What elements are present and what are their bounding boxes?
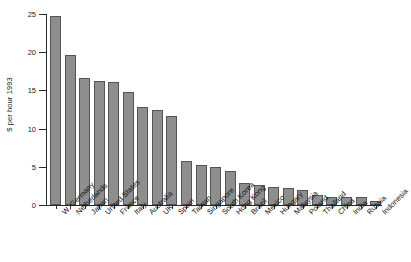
x-axis-label: W. Germany bbox=[60, 210, 66, 216]
x-axis-label: Netherlands bbox=[74, 210, 80, 216]
x-axis-label: Russia bbox=[365, 210, 371, 216]
x-axis-label: Thailand bbox=[321, 210, 327, 216]
x-axis-label: Italy bbox=[132, 210, 138, 216]
x-axis-label: Mexico bbox=[263, 210, 269, 216]
x-axis-label: Malaysia bbox=[292, 210, 298, 216]
y-tick-label-20: 20 bbox=[18, 48, 36, 57]
x-axis-label: India bbox=[351, 210, 357, 216]
x-tick bbox=[56, 205, 57, 209]
x-axis-label: Spain bbox=[176, 210, 182, 216]
y-axis-title-text: $ per hour 1993 bbox=[5, 77, 14, 131]
x-axis-label: Poland bbox=[307, 210, 313, 216]
y-tick-label-15: 15 bbox=[18, 86, 36, 95]
y-tick-label-25: 25 bbox=[18, 10, 36, 19]
x-axis-label: United States bbox=[103, 210, 109, 216]
y-axis-line bbox=[46, 14, 47, 206]
y-axis-title: $ per hour 1993 bbox=[0, 0, 18, 208]
y-tick-15 bbox=[39, 90, 46, 91]
bar bbox=[108, 82, 119, 205]
x-axis-label: Indonesia bbox=[380, 210, 386, 216]
bar-chart: $ per hour 1993 0510152025 W. GermanyNet… bbox=[0, 0, 411, 262]
x-axis-label: Hong Kong bbox=[234, 210, 240, 216]
y-tick-0 bbox=[39, 205, 46, 206]
x-axis-label: Brazil bbox=[249, 210, 255, 216]
y-tick-20 bbox=[39, 52, 46, 53]
x-axis-label: Japan bbox=[89, 210, 95, 216]
y-tick-5 bbox=[39, 167, 46, 168]
y-tick-25 bbox=[39, 14, 46, 15]
y-tick-label-5: 5 bbox=[18, 163, 36, 172]
y-tick-label-10: 10 bbox=[18, 125, 36, 134]
y-tick-label-0: 0 bbox=[18, 201, 36, 210]
x-axis-label: France bbox=[118, 210, 124, 216]
x-axis-label: Taiwan bbox=[190, 210, 196, 216]
bar bbox=[137, 107, 148, 205]
y-tick-10 bbox=[39, 129, 46, 130]
bar bbox=[152, 110, 163, 205]
x-axis-label: Singapore bbox=[205, 210, 211, 216]
x-axis-label: Hungary bbox=[278, 210, 284, 216]
x-axis-label: South Korea bbox=[220, 210, 226, 216]
bar bbox=[50, 16, 61, 205]
x-axis-label: UK bbox=[161, 210, 167, 216]
bar bbox=[65, 55, 76, 205]
x-axis-label: China bbox=[336, 210, 342, 216]
x-axis-label: Australia bbox=[147, 210, 153, 216]
